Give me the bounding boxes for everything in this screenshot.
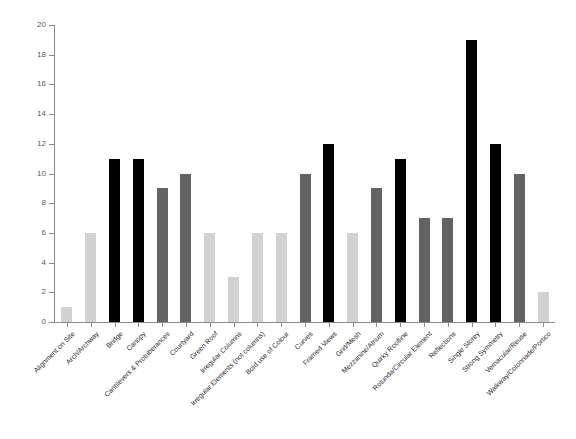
bar[interactable] bbox=[300, 174, 311, 323]
bar[interactable] bbox=[371, 188, 382, 322]
x-axis-tick bbox=[353, 323, 354, 327]
bar[interactable] bbox=[133, 159, 144, 322]
x-axis-tick-label: Irregular Columns bbox=[199, 330, 243, 374]
bar[interactable] bbox=[323, 144, 334, 322]
y-axis-tick bbox=[49, 203, 54, 204]
x-axis-tick bbox=[234, 323, 235, 327]
bar[interactable] bbox=[347, 233, 358, 322]
y-axis-tick-label: 18 bbox=[2, 51, 46, 59]
bar[interactable] bbox=[442, 218, 453, 322]
y-axis-tick bbox=[49, 322, 54, 323]
x-axis-tick-label: Canopy bbox=[125, 330, 147, 352]
x-axis-tick bbox=[138, 323, 139, 327]
x-axis-tick bbox=[400, 323, 401, 327]
y-axis-tick bbox=[49, 114, 54, 115]
y-axis-tick-label: 8 bbox=[2, 199, 46, 207]
x-axis-tick bbox=[376, 323, 377, 327]
x-axis-tick-label: Curves bbox=[293, 330, 314, 351]
bar[interactable] bbox=[419, 218, 430, 322]
y-axis-tick-label: 2 bbox=[2, 288, 46, 296]
y-axis-tick bbox=[49, 263, 54, 264]
x-axis-tick bbox=[305, 323, 306, 327]
y-axis-tick-label: 12 bbox=[2, 140, 46, 148]
bar[interactable] bbox=[180, 174, 191, 323]
x-axis-tick-label: Mezzanine/Atrium bbox=[340, 330, 385, 375]
y-axis-tick bbox=[49, 292, 54, 293]
x-axis-tick bbox=[281, 323, 282, 327]
y-axis-tick-label: 10 bbox=[2, 170, 46, 178]
y-axis-tick bbox=[49, 233, 54, 234]
x-axis-tick bbox=[495, 323, 496, 327]
bar[interactable] bbox=[538, 292, 549, 322]
y-axis-tick bbox=[49, 25, 54, 26]
bar[interactable] bbox=[395, 159, 406, 322]
bar[interactable] bbox=[61, 307, 72, 322]
x-axis-tick bbox=[257, 323, 258, 327]
x-axis-tick bbox=[67, 323, 68, 327]
y-axis-tick-label: 16 bbox=[2, 80, 46, 88]
x-axis-tick-label: Vernacular/Reuse bbox=[484, 330, 528, 374]
y-axis-tick-label: 4 bbox=[2, 259, 46, 267]
bar[interactable] bbox=[466, 40, 477, 322]
x-axis-tick-label: Bridge bbox=[105, 330, 124, 349]
bar[interactable] bbox=[252, 233, 263, 322]
y-axis-tick bbox=[49, 144, 54, 145]
x-axis-tick bbox=[543, 323, 544, 327]
x-axis-tick bbox=[424, 323, 425, 327]
x-axis-tick bbox=[210, 323, 211, 327]
bar[interactable] bbox=[276, 233, 287, 322]
bar[interactable] bbox=[204, 233, 215, 322]
x-axis-tick bbox=[519, 323, 520, 327]
y-axis-tick-label: 6 bbox=[2, 229, 46, 237]
bar[interactable] bbox=[228, 277, 239, 322]
y-axis-tick-label: 14 bbox=[2, 110, 46, 118]
x-axis-tick bbox=[162, 323, 163, 327]
y-axis-tick-label: 20 bbox=[2, 21, 46, 29]
x-axis-tick bbox=[448, 323, 449, 327]
bar[interactable] bbox=[490, 144, 501, 322]
x-axis-tick bbox=[186, 323, 187, 327]
x-axis-tick bbox=[115, 323, 116, 327]
bar[interactable] bbox=[514, 174, 525, 323]
x-axis-tick-label: Strong Symmetry bbox=[461, 330, 504, 373]
x-axis-tick-label: Alignment on Site bbox=[32, 330, 76, 374]
x-axis-tick-label: Bold use of Colour bbox=[244, 330, 290, 376]
bar[interactable] bbox=[109, 159, 120, 322]
x-axis-tick bbox=[329, 323, 330, 327]
y-axis-tick bbox=[49, 55, 54, 56]
y-axis-tick-label: 0 bbox=[2, 318, 46, 326]
x-axis-tick bbox=[472, 323, 473, 327]
y-axis-tick bbox=[49, 84, 54, 85]
x-axis-tick bbox=[91, 323, 92, 327]
bar[interactable] bbox=[157, 188, 168, 322]
bar-chart: 02468101214161820 Alignment on SiteArch/… bbox=[0, 0, 576, 439]
bar[interactable] bbox=[85, 233, 96, 322]
y-axis-tick bbox=[49, 174, 54, 175]
y-axis-line bbox=[54, 25, 55, 323]
